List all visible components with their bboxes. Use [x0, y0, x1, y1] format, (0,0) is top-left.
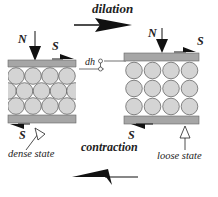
height-change-marker: dh [79, 56, 126, 71]
contraction-arrow-icon [72, 169, 138, 185]
left-panel-dense: N S S dense state [0, 31, 86, 159]
right-normal-force-label: N [147, 26, 158, 40]
contraction-label: contraction [81, 140, 138, 154]
left-normal-force-label: N [17, 32, 28, 46]
left-top-plate [8, 60, 76, 67]
dense-state-label: dense state [8, 148, 55, 159]
left-shear-top-arrow-icon [52, 54, 74, 59]
loose-state-label: loose state [157, 150, 202, 161]
loose-pointer-arrow-icon [180, 126, 190, 150]
right-shear-top-arrow-icon [174, 47, 196, 52]
dense-pointer-arrow-icon [26, 128, 45, 150]
dilatancy-diagram: dilation N S S [0, 0, 218, 197]
right-shear-top-label: S [197, 34, 204, 48]
right-particles [126, 62, 198, 115]
diagram-svg: dilation N S S [0, 0, 218, 197]
dilation-label: dilation [92, 1, 133, 16]
left-particles [0, 68, 83, 115]
right-top-plate [124, 53, 199, 61]
left-shear-bottom-label: S [19, 128, 26, 142]
right-normal-force-arrow-icon [156, 28, 168, 53]
dilation-arrow-icon [74, 18, 132, 32]
left-bottom-plate [8, 115, 76, 123]
left-normal-force-arrow-icon [29, 31, 41, 61]
left-shear-top-label: S [52, 39, 59, 53]
right-bottom-plate [124, 116, 199, 124]
dh-label: dh [85, 56, 95, 67]
